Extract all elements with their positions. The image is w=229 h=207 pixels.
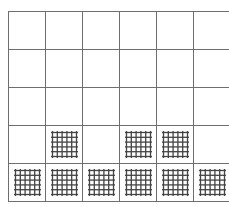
empty-cell: [8, 125, 46, 164]
empty-cell: [82, 11, 120, 50]
mesh-cell: [193, 163, 229, 202]
empty-cell: [156, 11, 194, 50]
empty-cell: [8, 49, 46, 88]
empty-cell: [45, 11, 83, 50]
grid-diagram: [8, 11, 229, 201]
empty-cell: [193, 87, 229, 126]
empty-cell: [82, 87, 120, 126]
empty-cell: [82, 125, 120, 164]
mesh-cell: [45, 163, 83, 202]
mesh-pattern-icon: [14, 169, 41, 196]
mesh-cell: [45, 125, 83, 164]
mesh-pattern-icon: [162, 131, 189, 158]
empty-cell: [119, 11, 157, 50]
mesh-pattern-icon: [125, 169, 152, 196]
mesh-cell: [82, 163, 120, 202]
empty-cell: [119, 87, 157, 126]
empty-cell: [45, 49, 83, 88]
empty-cell: [8, 11, 46, 50]
mesh-pattern-icon: [162, 169, 189, 196]
empty-cell: [119, 49, 157, 88]
empty-cell: [45, 87, 83, 126]
mesh-cell: [119, 125, 157, 164]
empty-cell: [193, 125, 229, 164]
empty-cell: [193, 49, 229, 88]
mesh-cell: [8, 163, 46, 202]
mesh-cell: [156, 125, 194, 164]
empty-cell: [8, 87, 46, 126]
mesh-pattern-icon: [51, 131, 78, 158]
empty-cell: [193, 11, 229, 50]
empty-cell: [156, 87, 194, 126]
mesh-cell: [156, 163, 194, 202]
mesh-pattern-icon: [199, 169, 226, 196]
empty-cell: [82, 49, 120, 88]
empty-cell: [156, 49, 194, 88]
mesh-cell: [119, 163, 157, 202]
mesh-pattern-icon: [88, 169, 115, 196]
mesh-pattern-icon: [51, 169, 78, 196]
mesh-pattern-icon: [125, 131, 152, 158]
